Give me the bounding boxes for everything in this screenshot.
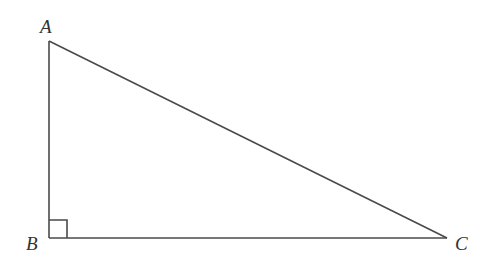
vertex-label-a: A bbox=[38, 16, 52, 37]
vertex-label-b: B bbox=[26, 233, 38, 254]
vertex-label-c: C bbox=[455, 233, 468, 254]
right-angle-marker-icon bbox=[49, 220, 67, 238]
triangle-diagram: A B C bbox=[0, 0, 496, 264]
side-ac-hypotenuse bbox=[49, 41, 447, 238]
